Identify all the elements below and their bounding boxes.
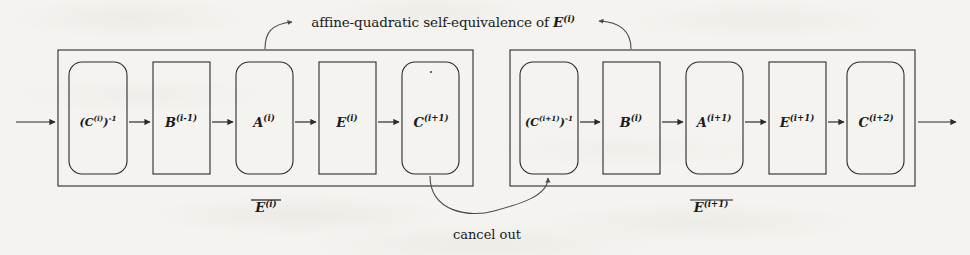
diagram-canvas <box>0 0 970 255</box>
lbl-sup: (i+1) <box>790 113 815 123</box>
curve-arrow-right-to-caption <box>599 21 631 49</box>
outer-label-left: E(i) <box>255 201 276 214</box>
lbl-base: C <box>414 115 424 130</box>
lbl-sup: (i) <box>631 113 642 123</box>
lbl-sup-inner: (i) <box>94 114 104 123</box>
lbl-base: E <box>336 115 346 130</box>
lbl-sup-outer: -1 <box>565 114 573 123</box>
outer-lbl-sup: (i+1) <box>704 199 729 209</box>
lbl-base: C <box>859 115 869 130</box>
lbl-sup: (i+1) <box>707 113 732 123</box>
lbl-base: (C <box>80 116 94 129</box>
label-box-c-inv-i-1: (C(i+1))-1 <box>525 117 573 128</box>
caption-symbol-sup: (i) <box>563 14 575 24</box>
outer-label-right: E(i+1) <box>694 201 728 214</box>
label-box-e-i: E(i) <box>336 116 357 129</box>
outer-lbl-base: E <box>694 200 704 215</box>
label-box-c-i-1: C(i+1) <box>414 116 449 129</box>
caption-text: affine-quadratic self-equivalence of <box>311 14 553 30</box>
lbl-sup: (i) <box>346 113 357 123</box>
outer-lbl-base: E <box>255 200 265 215</box>
lbl-sup-inner: (i+1) <box>539 114 560 123</box>
label-cancel-out: cancel out <box>453 228 521 241</box>
caption-affine-quadratic: affine-quadratic self-equivalence of E(i… <box>311 16 575 30</box>
label-box-a-i: A(i) <box>253 116 274 129</box>
lbl-base: A <box>253 115 263 130</box>
curve-arrow-left-to-caption <box>265 22 292 49</box>
label-box-e-i-1: E(i+1) <box>780 116 814 129</box>
curve-arrow-cancel-out <box>430 176 548 214</box>
figure-container: affine-quadratic self-equivalence of E(i… <box>0 0 970 255</box>
label-box-b-i-1: B(i-1) <box>165 116 197 129</box>
label-box-c-i-2: C(i+2) <box>859 116 894 129</box>
label-box-c-inv-i: (C(i))-1 <box>80 117 117 128</box>
lbl-sup: (i+1) <box>424 113 449 123</box>
lbl-base: B <box>165 115 176 130</box>
lbl-base: A <box>697 115 707 130</box>
lbl-base: B <box>620 115 631 130</box>
lbl-sup: (i-1) <box>176 113 197 123</box>
label-box-a-i-1: A(i+1) <box>697 116 732 129</box>
lbl-sup-outer: -1 <box>108 114 116 123</box>
lbl-base: (C <box>525 116 539 129</box>
caption-symbol: E <box>553 14 563 30</box>
outer-lbl-sup: (i) <box>265 199 276 209</box>
label-box-b-i: B(i) <box>620 116 642 129</box>
lbl-base: E <box>780 115 790 130</box>
lbl-sup: (i+2) <box>869 113 894 123</box>
lbl-sup: (i) <box>263 113 274 123</box>
